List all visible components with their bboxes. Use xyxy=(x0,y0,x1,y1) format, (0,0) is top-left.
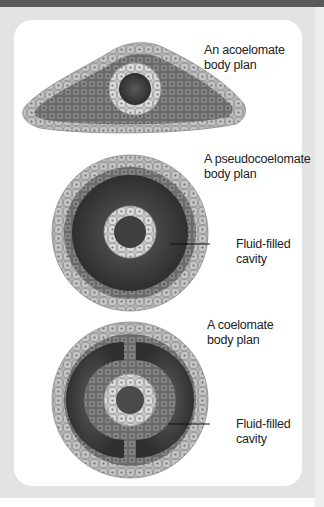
label-line: A coelomate xyxy=(207,318,274,333)
coelomate-diagram xyxy=(52,322,210,478)
coelomate-cavity-callout: Fluid-filled cavity xyxy=(236,417,291,447)
pseudocoelomate-cavity-callout: Fluid-filled cavity xyxy=(236,237,291,267)
pseudocoelomate-diagram xyxy=(52,155,210,311)
callout-line: cavity xyxy=(236,252,291,267)
label-line: body plan xyxy=(204,167,310,182)
label-line: body plan xyxy=(207,333,274,348)
label-line: An acoelomate xyxy=(204,43,285,58)
pseudocoelomate-label: A pseudocoelomate body plan xyxy=(204,152,310,182)
coelomate-label: A coelomate body plan xyxy=(207,318,274,348)
callout-line: Fluid-filled xyxy=(236,237,291,252)
acoelomate-label: An acoelomate body plan xyxy=(204,43,285,73)
label-line: A pseudocoelomate xyxy=(204,152,310,167)
callout-line: Fluid-filled xyxy=(236,417,291,432)
label-line: body plan xyxy=(204,58,285,73)
callout-line: cavity xyxy=(236,432,291,447)
